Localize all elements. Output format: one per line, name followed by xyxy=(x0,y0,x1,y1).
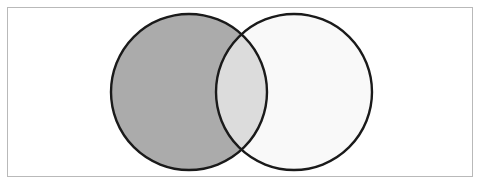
venn-diagram xyxy=(0,0,481,185)
figure-canvas xyxy=(0,0,481,185)
